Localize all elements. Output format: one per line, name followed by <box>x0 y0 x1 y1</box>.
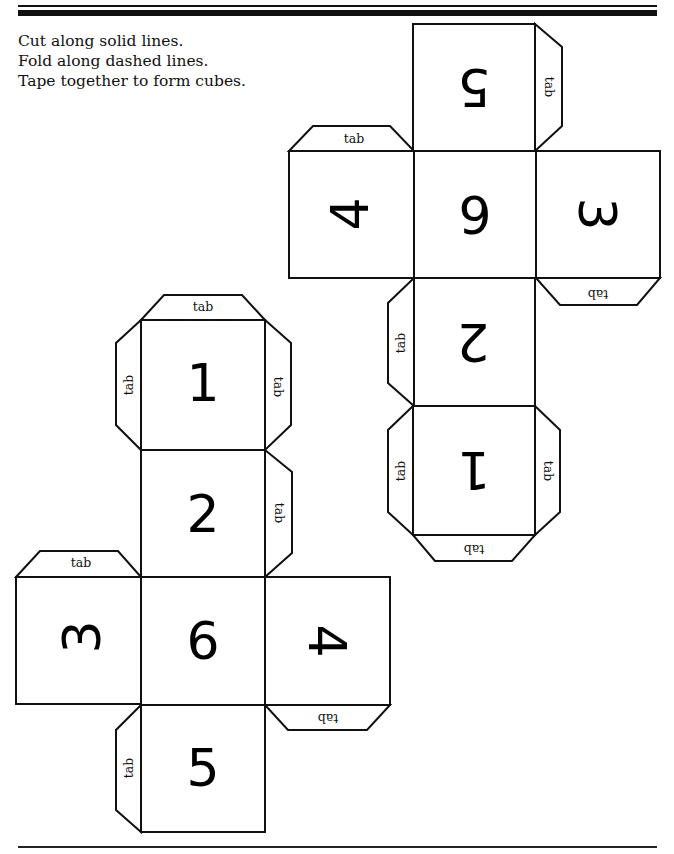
net-a-tab-label-top-right: tab <box>542 77 557 97</box>
net-b-tab-label-right-bottom: tab <box>318 711 338 726</box>
net-a-tab-label-bottom-left: tab <box>393 461 408 481</box>
net-a-face-left-number: 4 <box>320 197 380 230</box>
net-a-tab-label-right-bottom: tab <box>588 287 608 302</box>
footer-rule <box>18 846 657 848</box>
net-b-tab-label-top-left: tab <box>121 375 136 395</box>
net-b-face-top-number: 1 <box>186 353 219 413</box>
net-b-tab-label-top-top: tab <box>193 299 213 314</box>
net-a-face-bottom-number: 1 <box>457 440 490 500</box>
net-b-tab-label-bottom-left: tab <box>121 758 136 778</box>
net-b-face-bottom-number: 5 <box>186 738 219 798</box>
net-a-face-right-number: 3 <box>567 197 627 230</box>
cube-nets: 5 4 6 3 2 1 tab tab tab tab tab tab tab <box>0 0 674 854</box>
net-a-tab-label-left-top: tab <box>344 131 364 146</box>
net-a-face-top-number: 5 <box>457 57 490 117</box>
net-b-face-above-center-number: 2 <box>186 484 219 544</box>
net-a-face-center-number: 6 <box>458 184 491 244</box>
net-b-face-right-number: 4 <box>297 624 357 657</box>
net-a-tab-label-bottom-bottom: tab <box>464 542 484 557</box>
net-a-tab-label-mid-left: tab <box>393 333 408 353</box>
cube-net-a: 5 4 6 3 2 1 tab tab tab tab tab tab tab <box>289 24 660 561</box>
net-a-face-below-center-number: 2 <box>456 312 489 372</box>
net-b-face-center-number: 6 <box>186 611 219 671</box>
net-b-tab-label-left-top: tab <box>71 555 91 570</box>
net-a-tab-label-bottom-right: tab <box>541 461 556 481</box>
net-b-tab-label-mid-right: tab <box>272 503 287 523</box>
net-b-face-left-number: 3 <box>52 620 112 653</box>
cube-net-b: 1 2 3 6 4 5 tab tab tab tab tab tab tab <box>16 295 390 832</box>
net-b-tab-label-top-right: tab <box>271 377 286 397</box>
